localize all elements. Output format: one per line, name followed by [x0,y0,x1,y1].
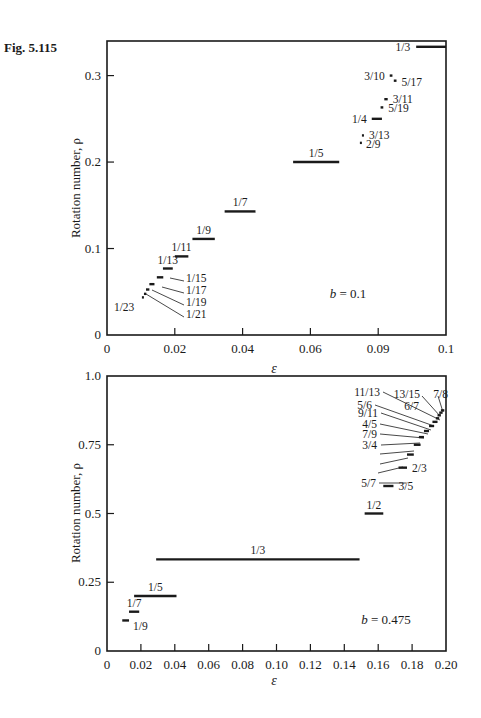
y-axis-ticks: 00.10.20.3 [85,68,114,342]
y-tick-label: 0.1 [85,241,101,256]
figure-canvas: 00.020.040.060.090.1 00.10.20.3 1/231/21… [0,0,481,718]
y-axis-ticks: 00.250.50.751.0 [78,368,114,658]
x-tick-label: 0.16 [367,657,390,672]
y-tick-label: 0.75 [78,437,101,452]
chart-top-b01: 00.020.040.060.090.1 00.10.20.3 1/231/21… [68,41,454,376]
y-tick-label: 0 [95,643,102,658]
x-tick-label: 0.02 [163,341,186,356]
plateau-label: 13/15 [394,388,420,400]
x-tick-label: 0.06 [299,341,322,356]
plateau-label: 2/3 [412,462,427,474]
chart-bottom-b0475: 00.020.040.060.080.100.120.140.160.180.2… [68,368,457,688]
x-tick-label: 0.14 [333,657,356,672]
plateau-label: 1/17 [186,284,207,296]
plot-frame [107,41,446,335]
parameter-annotation: b = 0.1 [330,286,367,301]
x-axis-ticks: 00.020.040.060.090.1 [104,328,454,356]
y-tick-label: 0.5 [85,506,101,521]
y-axis-label: Rotation number, ρ [68,138,83,238]
plateau-label: 1/21 [186,308,207,320]
x-tick-label: 0.10 [265,657,288,672]
plateaus: 1/91/71/51/31/23/52/35/73/47/94/59/115/6… [122,386,448,632]
x-tick-label: 0.1 [438,341,454,356]
plateau-label: 3/5 [398,480,413,492]
plateau-label: 3/10 [364,70,385,82]
y-tick-label: 0.2 [85,154,101,169]
x-tick-label: 0.04 [163,657,186,672]
x-tick-label: 0.09 [367,341,390,356]
x-tick-label: 0.02 [130,657,153,672]
plot-frame [107,376,446,651]
plateau-label: 3/11 [393,93,413,105]
y-axis-label: Rotation number, ρ [68,463,83,563]
plateau-label: 1/9 [196,224,211,236]
plateau-label: 1/5 [309,147,324,159]
plateau-label: 1/7 [127,597,142,609]
plateau-label: 1/15 [186,272,207,284]
plateau-label: 1/2 [367,499,382,511]
y-tick-label: 0.3 [85,68,101,83]
plateau-label: 5/17 [402,76,423,88]
x-tick-label: 0.06 [197,657,220,672]
x-tick-label: 0.18 [401,657,424,672]
x-tick-label: 0.04 [231,341,254,356]
plateau-label: 3/4 [362,439,377,451]
plateau-label: 1/4 [352,113,367,125]
x-axis-label: ε [271,361,277,376]
x-tick-label: 0.08 [231,657,254,672]
plateau-label: 5/7 [361,477,376,489]
plateaus: 1/231/211/191/171/151/131/111/91/71/52/9… [114,41,446,320]
plateau-label: 1/23 [114,301,135,313]
plateau-label: 7/8 [433,388,448,400]
y-tick-label: 0 [95,327,102,342]
plateau-label: 11/13 [354,386,380,398]
x-axis-ticks: 00.020.040.060.080.100.120.140.160.180.2… [104,644,458,672]
plateau-label: 1/9 [133,620,148,632]
y-tick-label: 0.25 [78,574,101,589]
plateau-label: 1/3 [395,41,410,53]
plateau-label: 5/6 [357,399,372,411]
plateau-label: 1/11 [172,241,192,253]
y-tick-label: 1.0 [85,368,101,383]
plateau-label: 1/5 [148,581,163,593]
plateau-label: 1/3 [251,544,266,556]
x-tick-label: 0 [104,657,111,672]
x-tick-label: 0 [104,341,111,356]
x-tick-label: 0.20 [435,657,458,672]
plateau-label: 1/7 [233,196,248,208]
plateau-label: 3/13 [369,129,390,141]
parameter-annotation: b = 0.475 [361,612,411,627]
plateau-label: 4/5 [362,418,377,430]
x-axis-label: ε [271,673,277,688]
x-tick-label: 0.12 [299,657,322,672]
plateau-label: 1/19 [186,296,207,308]
